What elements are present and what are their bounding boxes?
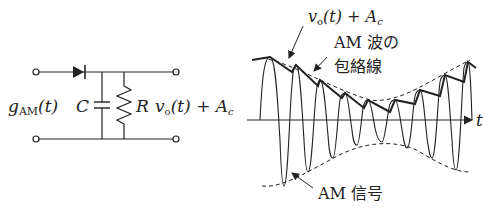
capacitor-label: C	[76, 96, 89, 116]
detector-output-label: vo(t) + Ac	[308, 7, 383, 27]
am-signal-label: AM 信号	[317, 184, 383, 203]
output-terminal-bottom	[173, 136, 179, 142]
lower-envelope-dashed	[262, 144, 470, 187]
am-waveform-plot: t vo(t) + Ac AM 波の 包絡線 AM 信号	[247, 7, 483, 203]
envelope-arrow	[314, 57, 327, 71]
input-signal-label: gAM(t)	[8, 96, 58, 118]
diagram-canvas: gAM(t) C R vo(t) + Ac t vo(t) + Ac AM 波の…	[0, 0, 490, 219]
output-terminal-top	[173, 69, 179, 75]
time-axis-label: t	[476, 110, 483, 130]
envelope-label-line1: AM 波の	[333, 33, 399, 52]
am-signal-arrow	[292, 173, 313, 188]
envelope-detector-circuit: gAM(t) C R vo(t) + Ac	[8, 65, 234, 142]
input-terminal-top	[33, 69, 39, 75]
detector-output-arrow	[289, 26, 303, 58]
input-terminal-bottom	[33, 136, 39, 142]
resistor-icon	[117, 72, 131, 139]
envelope-label-line2: 包絡線	[334, 57, 382, 76]
capacitor-icon	[94, 72, 110, 139]
diode-icon	[73, 65, 85, 79]
output-voltage-label: vo(t) + Ac	[155, 96, 234, 117]
resistor-label: R	[135, 96, 149, 116]
